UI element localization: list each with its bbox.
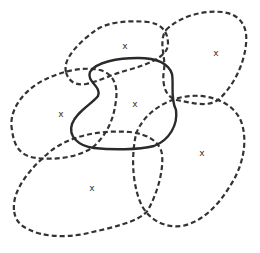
region-central-marker: x xyxy=(132,99,138,109)
region-top-right-outline xyxy=(162,12,246,104)
region-left-outline xyxy=(11,69,116,159)
venn-diagram: x x x x x x xyxy=(0,0,260,253)
region-bottom-right-marker: x xyxy=(199,148,205,158)
region-top-marker: x xyxy=(122,41,128,51)
region-left-marker: x xyxy=(58,109,64,119)
region-top-right-marker: x xyxy=(213,48,219,58)
region-bottom-left-marker: x xyxy=(89,183,95,193)
region-top-outline xyxy=(65,21,168,84)
